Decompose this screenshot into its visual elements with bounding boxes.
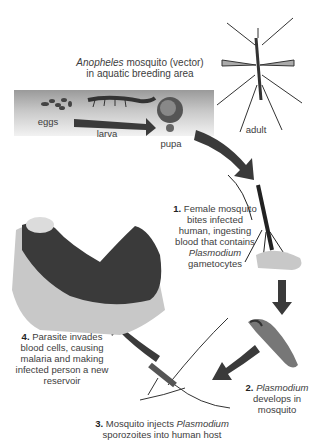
step-3-label: 3. Mosquito injects Plasmodium sporozoit… xyxy=(82,418,242,440)
pupa-icon xyxy=(157,97,183,132)
step-4-number: 4. xyxy=(22,331,30,342)
label-larva: larva xyxy=(92,128,122,139)
step-3-text: Mosquito injects xyxy=(106,418,177,429)
step-1-text-end: gametocytes xyxy=(188,258,242,269)
arrow-bite-to-develop xyxy=(272,280,292,315)
step-1-italic: Plasmodium xyxy=(189,247,241,258)
step-3-italic: Plasmodium xyxy=(177,418,229,429)
larva-icon xyxy=(88,98,155,107)
step-2-number: 2. xyxy=(246,382,254,393)
step-3-number: 3. xyxy=(95,418,103,429)
step-2-text: develops in mosquito xyxy=(253,393,301,415)
step-1-label: 1. Female mosquito bites infected human,… xyxy=(170,203,260,269)
step-1-number: 1. xyxy=(173,203,181,214)
label-eggs: eggs xyxy=(33,116,63,127)
arrow-develop-to-inject xyxy=(212,345,260,380)
arrow-pupa-to-bite xyxy=(194,130,254,180)
eggs-icon xyxy=(41,98,72,110)
skin-patch xyxy=(256,251,301,270)
label-adult: adult xyxy=(236,124,276,135)
step-2-label: 2. Plasmodium develops in mosquito xyxy=(236,382,318,415)
injecting-mosquito-icon xyxy=(140,318,230,408)
adult-mosquito-icon xyxy=(217,18,302,132)
infected-human-illustration xyxy=(12,217,165,335)
label-pupa: pupa xyxy=(156,138,186,149)
step-2-italic: Plasmodium xyxy=(256,382,308,393)
step-4-text: Parasite invades blood cells, causing ma… xyxy=(16,331,109,386)
step-4-label: 4. Parasite invades blood cells, causing… xyxy=(14,331,110,386)
infected-mosquito-icon xyxy=(248,319,298,367)
step-1-text: Female mosquito bites infected human, in… xyxy=(175,203,257,247)
step-3-text-end: sporozoites into human host xyxy=(103,429,222,440)
